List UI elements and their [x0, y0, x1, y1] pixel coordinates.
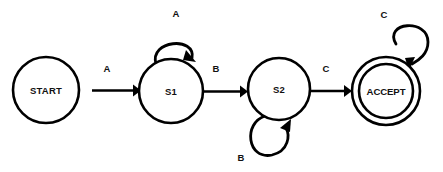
state-node-start[interactable]: START	[13, 57, 79, 123]
arrowhead-s1-self-loop	[183, 50, 196, 62]
state-node-s2[interactable]: S2	[248, 58, 310, 120]
transition-s2-to-accept: C	[311, 63, 352, 98]
transition-s1-self-loop: A	[155, 8, 196, 65]
transition-start-to-s1: A	[92, 63, 141, 97]
edge-label-accept-self-loop: C	[381, 9, 388, 20]
loop-path-s2	[251, 116, 288, 155]
state-machine-diagram: A B C A B C	[0, 0, 443, 172]
edge-label-s2-self-loop: B	[238, 152, 245, 163]
state-label-accept: ACCEPT	[367, 86, 406, 97]
state-node-accept[interactable]: ACCEPT	[352, 57, 420, 125]
transition-s2-self-loop: B	[238, 116, 291, 163]
state-label-start: START	[30, 85, 62, 96]
transition-s1-to-s2: B	[204, 63, 248, 98]
edge-label-s1-self-loop: A	[173, 8, 180, 19]
state-label-s2: S2	[273, 84, 285, 95]
state-label-s1: S1	[165, 86, 178, 97]
edge-label-s2-to-accept: C	[323, 63, 330, 74]
edge-label-s1-to-s2: B	[213, 63, 220, 74]
state-node-s1[interactable]: S1	[139, 59, 203, 123]
fsm-canvas: A B C A B C	[0, 0, 443, 172]
edge-label-start-to-s1: A	[104, 63, 111, 74]
